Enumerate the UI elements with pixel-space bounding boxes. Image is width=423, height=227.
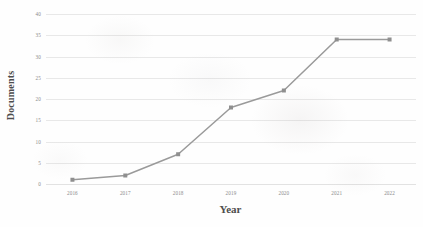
y-axis-tick-label: 0 bbox=[38, 181, 41, 187]
x-axis-tick-label: 2020 bbox=[278, 190, 289, 196]
y-axis-tick-label: 35 bbox=[36, 32, 41, 38]
series-line-documents bbox=[46, 14, 416, 184]
y-axis-tick-label: 5 bbox=[38, 160, 41, 166]
gridline bbox=[46, 184, 416, 185]
x-axis-tick-label: 2022 bbox=[384, 190, 395, 196]
data-point-marker bbox=[176, 152, 180, 156]
x-axis-tick-label: 2019 bbox=[226, 190, 237, 196]
plot-area: 0510152025303540201620172018201920202021… bbox=[46, 14, 416, 184]
data-line bbox=[72, 40, 389, 180]
x-axis-tick-label: 2018 bbox=[173, 190, 184, 196]
y-axis-tick-label: 20 bbox=[36, 96, 41, 102]
y-axis-tick-label: 15 bbox=[36, 117, 41, 123]
x-axis-title: Year bbox=[44, 203, 417, 215]
data-point-marker bbox=[229, 106, 233, 110]
data-point-marker bbox=[70, 178, 74, 182]
y-axis-tick-label: 40 bbox=[36, 11, 41, 17]
y-axis-title: Documents bbox=[2, 0, 20, 190]
line-chart-figure: Documents 051015202530354020162017201820… bbox=[0, 0, 423, 227]
y-axis-tick-label: 10 bbox=[36, 139, 41, 145]
y-axis-title-text: Documents bbox=[6, 70, 17, 120]
x-axis-tick-label: 2017 bbox=[120, 190, 131, 196]
y-axis-tick-label: 30 bbox=[36, 54, 41, 60]
data-point-marker bbox=[123, 174, 127, 178]
data-point-marker bbox=[282, 89, 286, 93]
x-axis-tick-label: 2016 bbox=[67, 190, 78, 196]
data-point-marker bbox=[335, 38, 339, 42]
x-axis-tick-label: 2021 bbox=[331, 190, 342, 196]
data-point-marker bbox=[388, 38, 392, 42]
y-axis-tick-label: 25 bbox=[36, 75, 41, 81]
